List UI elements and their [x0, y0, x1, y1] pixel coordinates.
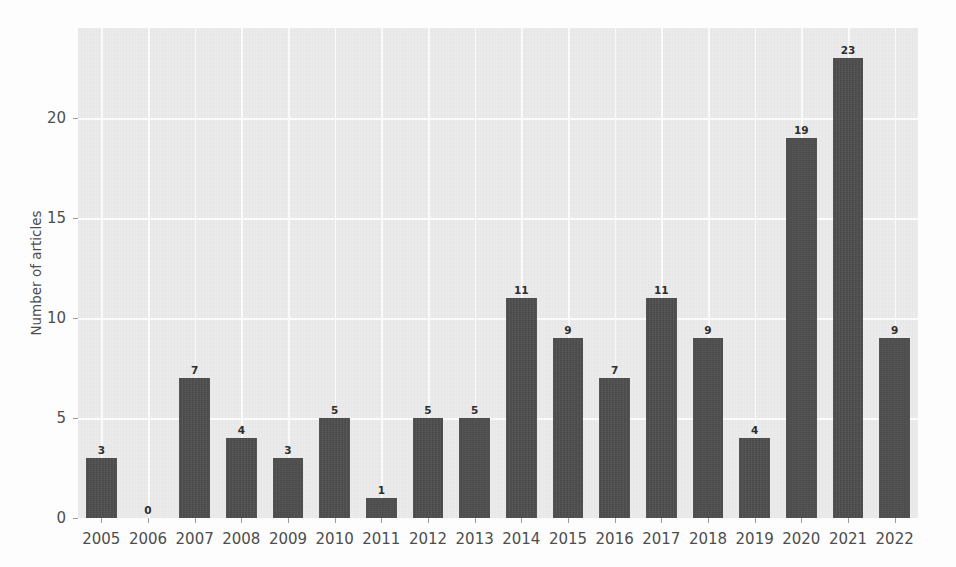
x-tick-mark [708, 518, 709, 523]
x-tick-mark [615, 518, 616, 523]
y-tick-mark [73, 518, 78, 519]
y-axis-title: Number of articles [28, 210, 44, 335]
bar-value-label-2018: 9 [704, 324, 711, 336]
bar-2009[interactable] [273, 458, 304, 518]
bar-chart-figure: 0510152020052006200720082009201020112012… [0, 0, 956, 567]
x-tick-label-2010: 2010 [316, 530, 354, 548]
x-tick-label-2006: 2006 [129, 530, 167, 548]
bar-value-label-2005: 3 [98, 444, 105, 456]
x-tick-label-2014: 2014 [502, 530, 540, 548]
y-tick-label-20: 20 [32, 109, 66, 127]
x-tick-mark [568, 518, 569, 523]
bar-2021[interactable] [833, 58, 864, 518]
bar-value-label-2008: 4 [238, 424, 245, 436]
bar-value-label-2010: 5 [331, 404, 338, 416]
y-tick-mark [73, 218, 78, 219]
bar-2005[interactable] [86, 458, 117, 518]
gridline-vertical [148, 28, 150, 518]
bar-2017[interactable] [646, 298, 677, 518]
bar-2020[interactable] [786, 138, 817, 518]
bar-value-label-2019: 4 [751, 424, 758, 436]
x-tick-label-2018: 2018 [689, 530, 727, 548]
bar-value-label-2021: 23 [841, 44, 856, 56]
y-tick-label-5: 5 [32, 409, 66, 427]
bar-value-label-2011: 1 [378, 484, 385, 496]
x-tick-label-2012: 2012 [409, 530, 447, 548]
x-tick-mark [288, 518, 289, 523]
y-tick-mark [73, 118, 78, 119]
x-tick-mark [521, 518, 522, 523]
bar-value-label-2007: 7 [191, 364, 198, 376]
y-tick-mark [73, 318, 78, 319]
bar-2013[interactable] [459, 418, 490, 518]
bar-2012[interactable] [413, 418, 444, 518]
x-tick-mark [101, 518, 102, 523]
bar-value-label-2006: 0 [144, 504, 151, 516]
x-tick-mark [801, 518, 802, 523]
x-tick-mark [755, 518, 756, 523]
bar-2018[interactable] [693, 338, 724, 518]
bar-value-label-2009: 3 [284, 444, 291, 456]
x-tick-label-2011: 2011 [362, 530, 400, 548]
x-tick-label-2016: 2016 [596, 530, 634, 548]
x-tick-mark [661, 518, 662, 523]
y-tick-label-0: 0 [32, 509, 66, 527]
x-tick-label-2017: 2017 [642, 530, 680, 548]
bar-value-label-2015: 9 [564, 324, 571, 336]
bar-value-label-2013: 5 [471, 404, 478, 416]
bar-2011[interactable] [366, 498, 397, 518]
x-tick-label-2020: 2020 [782, 530, 820, 548]
x-tick-mark [241, 518, 242, 523]
x-tick-mark [475, 518, 476, 523]
gridline-horizontal [78, 118, 918, 120]
x-tick-mark [895, 518, 896, 523]
x-tick-mark [335, 518, 336, 523]
gridline-vertical [381, 28, 383, 518]
plot-area [78, 28, 918, 518]
x-tick-label-2015: 2015 [549, 530, 587, 548]
x-tick-mark [195, 518, 196, 523]
bar-2015[interactable] [553, 338, 584, 518]
x-tick-label-2022: 2022 [876, 530, 914, 548]
bar-value-label-2017: 11 [654, 284, 669, 296]
bar-2010[interactable] [319, 418, 350, 518]
bar-2019[interactable] [739, 438, 770, 518]
x-tick-mark [428, 518, 429, 523]
x-tick-mark [848, 518, 849, 523]
x-tick-label-2013: 2013 [456, 530, 494, 548]
bar-2007[interactable] [179, 378, 210, 518]
bar-value-label-2022: 9 [891, 324, 898, 336]
bar-value-label-2016: 7 [611, 364, 618, 376]
bar-value-label-2014: 11 [514, 284, 529, 296]
x-tick-label-2007: 2007 [176, 530, 214, 548]
x-tick-mark [381, 518, 382, 523]
bar-value-label-2020: 19 [794, 124, 809, 136]
x-tick-label-2008: 2008 [222, 530, 260, 548]
x-tick-label-2021: 2021 [829, 530, 867, 548]
x-tick-label-2019: 2019 [736, 530, 774, 548]
x-tick-mark [148, 518, 149, 523]
bar-value-label-2012: 5 [424, 404, 431, 416]
bar-2014[interactable] [506, 298, 537, 518]
bar-2008[interactable] [226, 438, 257, 518]
bar-2022[interactable] [879, 338, 910, 518]
bar-2016[interactable] [599, 378, 630, 518]
y-tick-mark [73, 418, 78, 419]
x-tick-label-2009: 2009 [269, 530, 307, 548]
x-tick-label-2005: 2005 [82, 530, 120, 548]
